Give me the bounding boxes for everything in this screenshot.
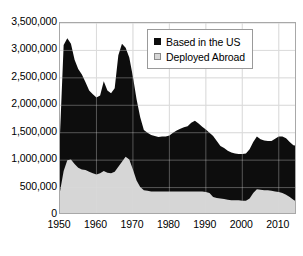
legend-item-based-in-the-us: Based in the US [154,34,245,49]
y-axis-tick-label: 500,000 [1,181,57,192]
legend-item-deployed-abroad: Deployed Abroad [154,49,245,64]
y-axis-tick-label: 1,000,000 [1,153,57,164]
legend-swatch-filled-square [154,38,161,45]
y-axis-tick-label: 2,500,000 [1,71,57,82]
x-axis: 1950196019701980199020002010 [0,218,303,238]
y-axis-tick-label: 3,500,000 [1,16,57,27]
legend-label-based-in-the-us: Based in the US [166,36,240,48]
y-axis-tick-label: 2,000,000 [1,98,57,109]
chart-container: 0500,0001,000,0001,500,0002,000,0002,500… [0,0,303,256]
y-axis-tick-label: 3,000,000 [1,43,57,54]
legend: Based in the US Deployed Abroad [147,29,253,69]
legend-swatch-outlined-square [154,53,161,60]
legend-label-deployed-abroad: Deployed Abroad [166,51,245,63]
y-axis-tick-label: 1,500,000 [1,126,57,137]
x-axis-tick-label: 2010 [256,218,300,231]
